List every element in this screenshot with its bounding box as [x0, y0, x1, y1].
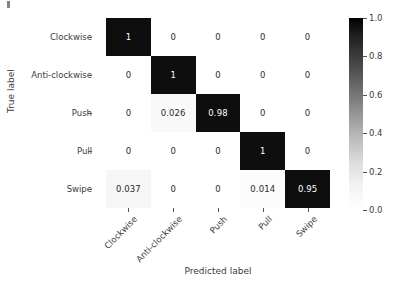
colorbar-gradient: [349, 18, 363, 210]
matrix-cell: 0: [196, 18, 241, 56]
x-tick-label: Swipe: [294, 214, 319, 239]
matrix-cell: 0: [151, 170, 196, 208]
matrix-cell-value: 0: [215, 147, 221, 156]
matrix-cell-value: 0: [170, 185, 176, 194]
confusion-matrix-grid: 100000100000.0260.9800000100.037000.0140…: [106, 18, 330, 208]
matrix-cell: 0.037: [106, 170, 151, 208]
matrix-cell: 0: [196, 56, 241, 94]
matrix-cell-value: 0.037: [116, 185, 141, 194]
crop-artifact-mark: [7, 1, 10, 8]
matrix-cell-value: 0: [126, 71, 132, 80]
matrix-cell: 1: [151, 56, 196, 94]
y-tick-label-text: Anti-clockwise: [31, 70, 92, 80]
x-axis-title: Predicted label: [106, 266, 330, 276]
matrix-cell-value: 1: [170, 71, 176, 80]
x-tick-label-text: Swipe: [294, 214, 319, 239]
x-tick-mark: [308, 208, 309, 212]
x-tick-label: Anti-clockwise: [134, 214, 184, 264]
matrix-cell-value: 0: [305, 109, 311, 118]
y-tick-mark: [88, 75, 92, 76]
matrix-cell: 0: [285, 56, 330, 94]
matrix-cell: 1: [106, 18, 151, 56]
matrix-cell-value: 1: [126, 33, 132, 42]
x-tick-label: Clockwise: [103, 214, 140, 251]
matrix-cell-value: 0.026: [161, 109, 186, 118]
y-tick-mark: [88, 113, 92, 114]
matrix-cell: 0.026: [151, 94, 196, 132]
colorbar-tick-label: 0.0: [369, 205, 383, 215]
confusion-matrix-figure: True label ClockwiseAnti-clockwisePushPu…: [0, 0, 395, 288]
y-tick-label-text: Clockwise: [50, 32, 92, 42]
colorbar-tick-mark: [363, 56, 367, 57]
colorbar: 1.00.80.60.40.20.0: [349, 18, 363, 210]
matrix-cell: 0: [285, 94, 330, 132]
matrix-cell-value: 0: [305, 147, 311, 156]
matrix-cell-value: 0: [126, 109, 132, 118]
x-tick-label-text: Clockwise: [103, 214, 140, 251]
matrix-cell-value: 0: [126, 147, 132, 156]
matrix-cell-value: 0: [215, 71, 221, 80]
y-axis-tick-labels: ClockwiseAnti-clockwisePushPullSwipe: [0, 18, 99, 208]
colorbar-tick-label: 1.0: [369, 13, 383, 23]
x-tick-mark: [263, 208, 264, 212]
colorbar-tick-mark: [363, 95, 367, 96]
y-tick-label: Push: [72, 94, 92, 132]
colorbar-tick-mark: [363, 18, 367, 19]
y-tick-label: Clockwise: [50, 18, 92, 56]
colorbar-tick-label: 0.8: [369, 51, 383, 61]
y-tick-mark: [88, 37, 92, 38]
matrix-cell-value: 0: [170, 147, 176, 156]
matrix-cell-value: 0: [260, 71, 266, 80]
matrix-cell-value: 0: [215, 185, 221, 194]
x-tick-label: Push: [208, 214, 229, 235]
matrix-cell-value: 0: [260, 33, 266, 42]
matrix-cell-value: 0.98: [208, 109, 227, 118]
colorbar-tick-mark: [363, 210, 367, 211]
matrix-cell: 0: [106, 132, 151, 170]
y-tick-mark: [88, 151, 92, 152]
y-tick-label: Swipe: [67, 170, 92, 208]
y-tick-mark: [88, 189, 92, 190]
colorbar-tick-label: 0.6: [369, 90, 383, 100]
colorbar-tick-label: 0.4: [369, 128, 383, 138]
x-tick-label-text: Anti-clockwise: [134, 214, 184, 264]
x-tick-label: Pull: [256, 214, 274, 232]
x-tick-mark: [128, 208, 129, 212]
matrix-cell: 0: [196, 132, 241, 170]
matrix-cell: 0: [151, 18, 196, 56]
matrix-cell: 0: [106, 94, 151, 132]
matrix-cell-value: 0.95: [298, 185, 317, 194]
colorbar-tick-mark: [363, 172, 367, 173]
matrix-cell: 0.95: [285, 170, 330, 208]
matrix-cell: 0: [151, 132, 196, 170]
x-tick-mark: [218, 208, 219, 212]
matrix-cell: 0: [240, 94, 285, 132]
matrix-cell-value: 0: [260, 109, 266, 118]
matrix-cell-value: 0: [305, 71, 311, 80]
matrix-cell-value: 0.014: [250, 185, 275, 194]
matrix-cell: 0: [285, 132, 330, 170]
colorbar-tick-mark: [363, 133, 367, 134]
matrix-cell: 0.014: [240, 170, 285, 208]
x-tick-label-text: Push: [208, 214, 229, 235]
matrix-cell: 0.98: [196, 94, 241, 132]
matrix-cell: 0: [196, 170, 241, 208]
matrix-cell: 0: [106, 56, 151, 94]
matrix-cell-value: 1: [260, 147, 266, 156]
matrix-cell: 1: [240, 132, 285, 170]
matrix-cell: 0: [285, 18, 330, 56]
x-tick-label-text: Pull: [256, 214, 274, 232]
colorbar-tick-label: 0.2: [369, 167, 383, 177]
matrix-cell: 0: [240, 18, 285, 56]
y-tick-label: Anti-clockwise: [31, 56, 92, 94]
x-tick-mark: [173, 208, 174, 212]
y-tick-label: Pull: [77, 132, 92, 170]
matrix-cell-value: 0: [170, 33, 176, 42]
matrix-cell: 0: [240, 56, 285, 94]
x-axis-tick-labels: ClockwiseAnti-clockwisePushPullSwipe: [106, 208, 330, 258]
matrix-cell-value: 0: [215, 33, 221, 42]
matrix-cell-value: 0: [305, 33, 311, 42]
